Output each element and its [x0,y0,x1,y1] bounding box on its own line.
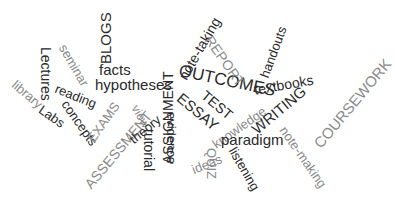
word-coursework: COURSEWORK [311,56,394,151]
word-evidence: evidence [165,112,178,164]
word-cloud: BLOGSfactshypothesesseminarLectureslibra… [0,0,395,205]
word-tutorial: tutorial [142,129,156,171]
word-listening: listening [227,145,262,193]
word-facts: facts [99,62,131,77]
word-handouts: handouts [258,25,289,80]
word-paradigm: paradigm [221,132,284,147]
word-quiz: QUIZ [205,148,218,179]
word-lectures: Lectures [39,47,53,101]
word-blogs: BLOGS [98,12,113,64]
